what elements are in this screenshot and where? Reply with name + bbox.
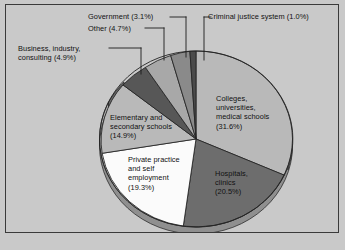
slice-label-government: Government (3.1%) <box>88 12 188 21</box>
slice-label-other: Other (4.7%) <box>88 24 188 33</box>
slice-label-private-practice: Private practice and self employment (19… <box>128 155 202 192</box>
slice-label-elementary-secondary: Elementary and secondary schools (14.9%) <box>110 113 192 141</box>
slice-label-hospitals: Hospitals, clinics (20.5%) <box>215 169 285 197</box>
figure-canvas: Government (3.1%) Other (4.7%) Business,… <box>0 0 345 250</box>
slice-label-business-industry: Business, industry, consulting (4.9%) <box>18 44 114 62</box>
slice-label-colleges: Colleges, universities, medical schools … <box>216 94 290 131</box>
slice-label-criminal-justice: Criminal justice system (1.0%) <box>208 12 343 21</box>
